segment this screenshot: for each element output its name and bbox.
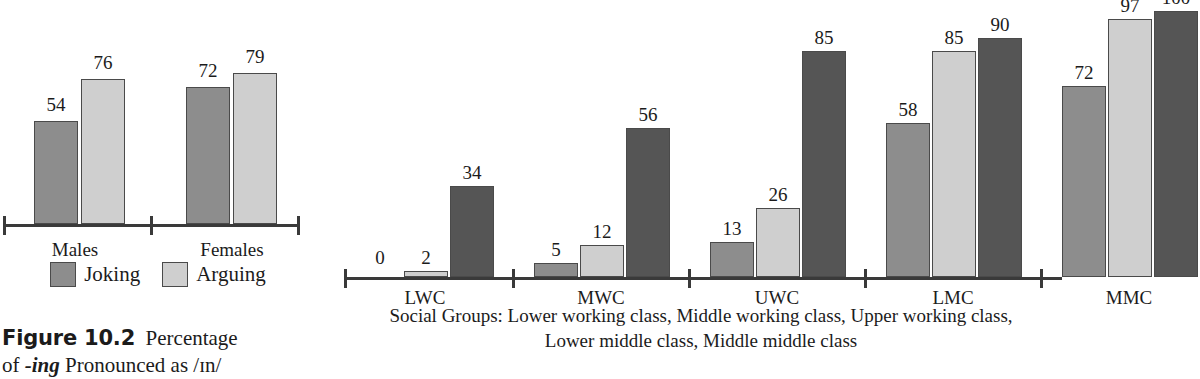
group-label-males: Males: [20, 240, 130, 259]
bar-lwc-3: [450, 186, 494, 277]
social-class-bar-chart: 0 2 34 5 12 56 13 26 85 58 85 90 72 97 1: [340, 0, 1062, 374]
figure-caption-line2-pre: of: [2, 353, 25, 377]
bar-label-uwc-1: 13: [710, 219, 754, 238]
legend-item-joking: Joking: [50, 262, 140, 287]
bar-mmc-1: [1062, 86, 1106, 277]
figure-caption-line2-post: Pronounced as /ɪn/: [60, 353, 222, 377]
bar-label-uwc-2: 26: [756, 185, 800, 204]
legend-swatch-arguing-icon: [162, 262, 188, 287]
gender-chart-plot: 54 76 72 79: [0, 0, 318, 224]
bar-label-lmc-1: 58: [886, 100, 930, 119]
legend-item-arguing: Arguing: [162, 262, 266, 287]
bar-label-males-joking: 54: [34, 95, 78, 114]
bar-label-mmc-1: 72: [1062, 63, 1106, 82]
legend-label-arguing: Arguing: [196, 264, 266, 285]
social-class-chart-plot: 0 2 34 5 12 56 13 26 85 58 85 90 72 97 1: [340, 0, 1062, 277]
axis-tick-2: [688, 269, 691, 288]
bar-label-mwc-1: 5: [534, 240, 578, 259]
legend: Joking Arguing: [10, 262, 306, 287]
gender-bar-chart: 54 76 72 79 Males Females Joking Arguing…: [0, 0, 318, 374]
legend-swatch-joking-icon: [50, 262, 76, 287]
bar-males-arguing: [81, 79, 125, 224]
axis-tick-1: [512, 269, 515, 288]
figure-caption-emphasis: -ing: [25, 353, 60, 377]
bar-mwc-2: [580, 245, 624, 277]
bar-label-females-arguing: 79: [233, 47, 277, 66]
bar-label-lwc-3: 34: [450, 163, 494, 182]
bar-uwc-2: [756, 208, 800, 277]
axis-tick-left: [3, 216, 6, 235]
axis-tick-middle: [150, 216, 153, 235]
bar-label-lmc-3: 90: [978, 15, 1022, 34]
group-label-mmc: MMC: [1074, 288, 1184, 307]
bar-females-joking: [186, 87, 230, 224]
bar-label-mwc-3: 56: [626, 105, 670, 124]
bar-lmc-2: [932, 51, 976, 277]
axis-caption-line-1: Social Groups: Lower working class, Midd…: [340, 303, 1062, 328]
axis-caption-line-2: Lower middle class, Middle middle class: [340, 328, 1062, 353]
bar-label-lwc-2: 2: [404, 248, 448, 267]
axis-tick-3: [864, 269, 867, 288]
axis-tick-0: [344, 269, 347, 288]
bar-mwc-1: [534, 263, 578, 277]
social-class-chart-axis: [344, 277, 1062, 280]
bar-mmc-3: [1154, 11, 1198, 277]
bar-label-lmc-2: 85: [932, 28, 976, 47]
bar-label-females-joking: 72: [186, 61, 230, 80]
legend-label-joking: Joking: [84, 264, 140, 285]
axis-tick-right: [297, 216, 300, 235]
bar-label-males-arguing: 76: [81, 53, 125, 72]
bar-uwc-3: [802, 51, 846, 277]
bar-lmc-3: [978, 38, 1022, 277]
bar-label-lwc-1: 0: [358, 248, 402, 267]
figure-caption-line1: Percentage: [146, 326, 238, 350]
group-label-females: Females: [172, 240, 292, 259]
bar-mwc-3: [626, 128, 670, 277]
axis-tick-4: [1040, 269, 1043, 288]
figure-number: Figure 10.2: [2, 326, 135, 350]
bar-label-mwc-2: 12: [580, 222, 624, 241]
bar-lmc-1: [886, 123, 930, 277]
bar-mmc-2: [1108, 19, 1152, 277]
bar-females-arguing: [233, 73, 277, 224]
axis-caption: Social Groups: Lower working class, Midd…: [340, 303, 1062, 353]
bar-label-uwc-3: 85: [802, 28, 846, 47]
bar-uwc-1: [710, 242, 754, 277]
bar-label-mmc-2: 97: [1108, 0, 1152, 15]
bar-males-joking: [34, 121, 78, 224]
figure-caption: Figure 10.2 Percentageof -ing Pronounced…: [2, 325, 302, 379]
bar-label-mmc-3: 100: [1152, 0, 1200, 7]
